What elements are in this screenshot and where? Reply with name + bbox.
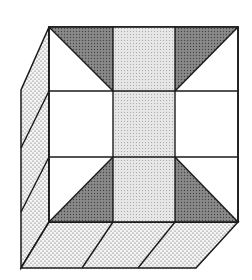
bottom-face [21, 222, 238, 268]
center-column [113, 27, 175, 222]
cube-diagram [0, 0, 252, 280]
